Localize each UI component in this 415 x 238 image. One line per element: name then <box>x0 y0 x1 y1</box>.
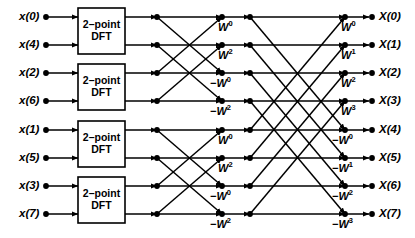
stage2-out-node-dot <box>247 127 253 133</box>
output-node-dot <box>369 155 375 161</box>
fft-signal-flow-svg <box>0 0 415 238</box>
dft-block-label: 2–pointDFT <box>78 19 125 43</box>
output-node-dot <box>369 42 375 48</box>
stage1-node-dot <box>154 183 160 189</box>
dft-block-line1: 2–point <box>78 188 125 200</box>
twiddle-base: W <box>216 105 226 117</box>
twiddle-exponent: 3 <box>351 103 355 112</box>
stage2-twiddle-6: −W0 <box>210 189 231 202</box>
stage3-twiddle-0: W0 <box>341 20 356 33</box>
input-label-5: x(5) <box>19 152 39 164</box>
twiddle-base: W <box>338 134 348 146</box>
stage1-node-dot <box>154 14 160 20</box>
output-label-6: X(6) <box>379 180 401 192</box>
twiddle-base: W <box>218 49 228 61</box>
twiddle-exponent: 0 <box>228 132 232 141</box>
dft-block-line2: DFT <box>78 144 125 156</box>
twiddle-base: W <box>338 162 348 174</box>
dft-block-line2: DFT <box>78 31 125 43</box>
stage2-twiddle-3: −W2 <box>210 104 231 117</box>
stage2-out-node-dot <box>247 98 253 104</box>
twiddle-base: W <box>341 77 351 89</box>
dft-block-line1: 2–point <box>78 19 125 31</box>
twiddle-exponent: 2 <box>351 75 355 84</box>
input-node-dot <box>43 127 49 133</box>
input-node-dot <box>43 14 49 20</box>
fft-flow-graph: 2–pointDFT2–pointDFT2–pointDFT2–pointDFT… <box>0 0 415 238</box>
twiddle-exponent: 1 <box>351 47 355 56</box>
stage3-twiddle-2: W2 <box>341 76 356 89</box>
input-label-0: x(0) <box>19 11 39 23</box>
twiddle-base: W <box>338 218 348 230</box>
twiddle-base: W <box>341 105 351 117</box>
twiddle-base: W <box>218 21 228 33</box>
stage1-node-dot <box>154 211 160 217</box>
stage1-node-dot <box>154 155 160 161</box>
output-node-dot <box>369 211 375 217</box>
twiddle-exponent: 2 <box>228 160 232 169</box>
stage3-twiddle-4: −W0 <box>332 133 353 146</box>
input-label-6: x(6) <box>19 95 39 107</box>
dft-block-line1: 2–point <box>78 132 125 144</box>
input-node-dot <box>43 98 49 104</box>
twiddle-base: W <box>341 21 351 33</box>
twiddle-exponent: 2 <box>228 47 232 56</box>
twiddle-exponent: 0 <box>228 19 232 28</box>
stage2-twiddle-0: W0 <box>218 20 233 33</box>
twiddle-base: W <box>216 190 226 202</box>
output-label-0: X(0) <box>379 11 401 23</box>
stage2-twiddle-4: W0 <box>218 133 233 146</box>
twiddle-exponent: 2 <box>227 103 231 112</box>
twiddle-base: W <box>216 218 226 230</box>
output-node-dot <box>369 70 375 76</box>
stage2-twiddle-7: −W2 <box>210 217 231 230</box>
dft-block-line2: DFT <box>78 200 125 212</box>
output-label-4: X(4) <box>379 124 401 136</box>
stage2-out-node-dot <box>247 14 253 20</box>
output-node-dot <box>369 14 375 20</box>
output-label-1: X(1) <box>379 39 401 51</box>
twiddle-base: W <box>218 162 228 174</box>
dft-block-line1: 2–point <box>78 75 125 87</box>
output-node-dot <box>369 127 375 133</box>
stage3-twiddle-6: −W2 <box>332 189 353 202</box>
stage1-node-dot <box>154 70 160 76</box>
input-node-dot <box>43 155 49 161</box>
input-node-dot <box>43 183 49 189</box>
output-node-dot <box>369 183 375 189</box>
twiddle-base: W <box>216 77 226 89</box>
stage2-out-node-dot <box>247 183 253 189</box>
stage1-node-dot <box>154 42 160 48</box>
dft-block-label: 2–pointDFT <box>78 75 125 99</box>
twiddle-exponent: 2 <box>227 216 231 225</box>
stage2-out-node-dot <box>247 211 253 217</box>
stage3-twiddle-5: −W1 <box>332 161 353 174</box>
stage2-twiddle-2: −W0 <box>210 76 231 89</box>
twiddle-exponent: 3 <box>349 216 353 225</box>
stage1-node-dot <box>154 127 160 133</box>
twiddle-exponent: 2 <box>349 188 353 197</box>
twiddle-exponent: 1 <box>349 160 353 169</box>
stage2-out-node-dot <box>247 155 253 161</box>
input-label-1: x(1) <box>19 124 39 136</box>
twiddle-base: W <box>341 49 351 61</box>
stage2-out-node-dot <box>247 42 253 48</box>
twiddle-exponent: 0 <box>227 75 231 84</box>
twiddle-exponent: 0 <box>351 19 355 28</box>
input-label-2: x(2) <box>19 67 39 79</box>
dft-block-label: 2–pointDFT <box>78 188 125 212</box>
stage1-node-dot <box>154 98 160 104</box>
output-label-3: X(3) <box>379 95 401 107</box>
stage3-twiddle-3: W3 <box>341 104 356 117</box>
output-label-2: X(2) <box>379 67 401 79</box>
output-label-7: X(7) <box>379 208 401 220</box>
stage2-out-node-dot <box>247 70 253 76</box>
output-node-dot <box>369 98 375 104</box>
stage2-twiddle-1: W2 <box>218 48 233 61</box>
input-label-4: x(4) <box>19 39 39 51</box>
stage3-twiddle-7: −W3 <box>332 217 353 230</box>
twiddle-base: W <box>218 134 228 146</box>
input-label-3: x(3) <box>19 180 39 192</box>
twiddle-exponent: 0 <box>227 188 231 197</box>
input-label-7: x(7) <box>19 208 39 220</box>
